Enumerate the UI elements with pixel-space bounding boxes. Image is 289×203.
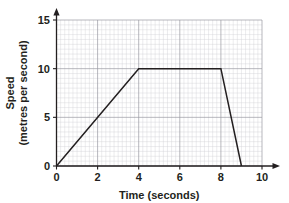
axes [53,8,280,169]
y-axis-arrow-icon [53,8,59,16]
y-tick-label: 0 [44,160,50,172]
x-tick-label: 10 [256,171,268,183]
y-axis-title-line2: (metres per second) [17,40,29,145]
x-tick-label: 0 [53,171,59,183]
x-axis-arrow-icon [273,163,281,169]
chart-canvas: 0246810 051015 Time (seconds) Speed (met… [0,0,289,203]
x-tick-label: 2 [95,171,101,183]
y-tick-label: 15 [38,14,50,26]
x-tick-label: 4 [136,171,143,183]
x-tick-label: 6 [177,171,183,183]
y-axis-title-line1: Speed [4,76,16,109]
y-tick-label: 5 [44,111,50,123]
y-tick-label: 10 [38,63,50,75]
minor-gridlines [57,20,263,166]
x-tick-label: 8 [218,171,224,183]
x-axis-tick-labels: 0246810 [53,171,268,183]
speed-time-chart: 0246810 051015 Time (seconds) Speed (met… [0,0,289,203]
y-axis-tick-labels: 051015 [38,14,50,172]
x-axis-title: Time (seconds) [119,189,200,201]
